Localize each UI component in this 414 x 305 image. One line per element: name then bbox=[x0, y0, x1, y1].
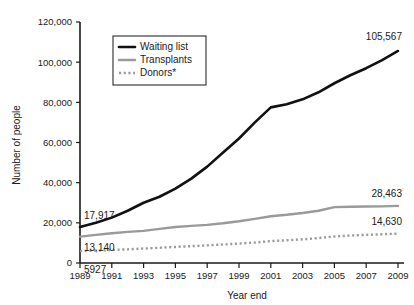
x-tick-label: 1993 bbox=[133, 270, 154, 281]
y-tick-label: 0 bbox=[67, 257, 72, 268]
x-tick-label: 2007 bbox=[356, 270, 377, 281]
legend-label-waiting-list: Waiting list bbox=[140, 41, 188, 52]
y-tick-label: 120,000 bbox=[38, 16, 72, 27]
data-label: 17,917 bbox=[84, 210, 115, 221]
x-tick-label: 2009 bbox=[387, 270, 408, 281]
chart-container: 020,00040,00060,00080,000100,000120,000 … bbox=[0, 0, 414, 305]
data-label: 5927 bbox=[84, 264, 107, 275]
line-chart-figure: 020,00040,00060,00080,000100,000120,000 … bbox=[0, 0, 414, 305]
y-tick-label: 40,000 bbox=[43, 177, 72, 188]
y-axis-title: Number of people bbox=[11, 105, 22, 185]
chart-legend[interactable]: Waiting listTransplantsDonors* bbox=[113, 36, 206, 85]
data-label: 14,630 bbox=[371, 216, 402, 227]
y-tick-label: 60,000 bbox=[43, 137, 72, 148]
data-label: 28,463 bbox=[371, 188, 402, 199]
chart-background bbox=[0, 0, 414, 305]
y-tick-label: 80,000 bbox=[43, 97, 72, 108]
y-tick-label: 20,000 bbox=[43, 217, 72, 228]
data-label: 105,567 bbox=[366, 31, 403, 42]
data-label: 13,140 bbox=[84, 242, 115, 253]
x-axis-title: Year end bbox=[227, 290, 267, 301]
x-tick-label: 1997 bbox=[197, 270, 218, 281]
x-tick-label: 2001 bbox=[260, 270, 281, 281]
x-tick-label: 1995 bbox=[165, 270, 186, 281]
x-tick-label: 1999 bbox=[228, 270, 249, 281]
x-tick-label: 2005 bbox=[324, 270, 345, 281]
legend-label-transplants: Transplants bbox=[140, 54, 192, 65]
x-tick-label: 2003 bbox=[292, 270, 313, 281]
legend-label-donors: Donors* bbox=[140, 67, 176, 78]
y-tick-label: 100,000 bbox=[38, 57, 72, 68]
